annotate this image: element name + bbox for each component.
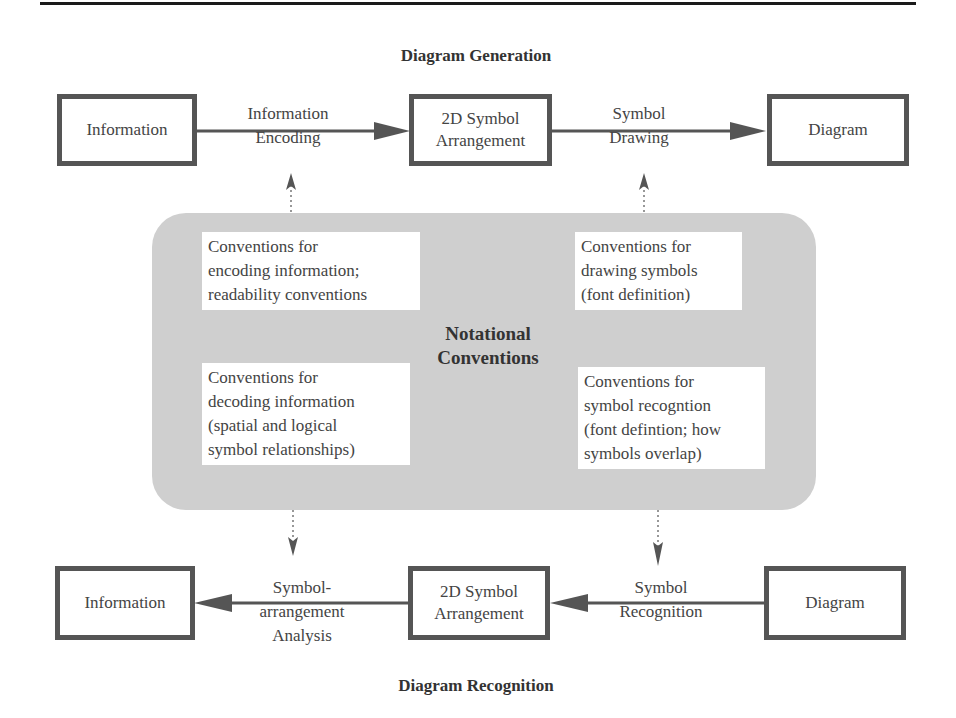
node-information-generation: Information xyxy=(57,94,197,166)
node-label-line1: 2D Symbol xyxy=(442,108,520,130)
note-line: Conventions for xyxy=(208,366,404,390)
node-diagram-recognition: Diagram xyxy=(764,566,906,640)
node-label: Information xyxy=(84,592,165,614)
edge-label-line3: Analysis xyxy=(232,624,372,648)
note-line: Conventions for xyxy=(584,370,759,394)
edge-label-line1: Symbol- xyxy=(232,576,372,600)
edge-label-line2: Encoding xyxy=(218,126,358,150)
edge-label-line2: arrangement xyxy=(232,600,372,624)
node-label-line2: Arrangement xyxy=(436,130,526,152)
node-diagram-generation: Diagram xyxy=(767,94,909,166)
edge-label-symbol-recognition: Symbol Recognition xyxy=(596,576,726,624)
note-line: symbol recogntion xyxy=(584,394,759,418)
node-label: Diagram xyxy=(808,119,867,141)
edge-label-symbol-drawing: Symbol Drawing xyxy=(574,102,704,150)
note-line: Conventions for xyxy=(581,235,736,259)
node-2d-symbol-arrangement-recognition: 2D Symbol Arrangement xyxy=(408,566,550,640)
edge-label-symbol-arrangement-analysis: Symbol- arrangement Analysis xyxy=(232,576,372,648)
note-line: (font defintion; how xyxy=(584,418,759,442)
note-line: readability conventions xyxy=(208,283,414,307)
note-drawing-conventions: Conventions for drawing symbols (font de… xyxy=(575,232,742,310)
note-encoding-conventions: Conventions for encoding information; re… xyxy=(202,232,420,310)
note-line: Conventions for xyxy=(208,235,414,259)
note-recognition-conventions: Conventions for symbol recogntion (font … xyxy=(578,367,765,469)
node-label: Diagram xyxy=(805,592,864,614)
note-line: encoding information; xyxy=(208,259,414,283)
edge-label-line2: Drawing xyxy=(574,126,704,150)
node-label-line2: Arrangement xyxy=(434,603,524,625)
note-line: (spatial and logical xyxy=(208,414,404,438)
node-2d-symbol-arrangement-generation: 2D Symbol Arrangement xyxy=(409,94,552,166)
edge-label-line2: Recognition xyxy=(596,600,726,624)
title-line1: Notational xyxy=(418,322,558,346)
note-line: (font definition) xyxy=(581,283,736,307)
note-line: drawing symbols xyxy=(581,259,736,283)
note-line: decoding information xyxy=(208,390,404,414)
node-information-recognition: Information xyxy=(55,566,195,640)
edge-label-information-encoding: Information Encoding xyxy=(218,102,358,150)
node-label: Information xyxy=(86,119,167,141)
node-label-line1: 2D Symbol xyxy=(440,581,518,603)
recognition-title: Diagram Recognition xyxy=(366,676,586,696)
note-decoding-conventions: Conventions for decoding information (sp… xyxy=(202,363,410,465)
note-line: symbols overlap) xyxy=(584,442,759,466)
edge-label-line1: Information xyxy=(218,102,358,126)
note-line: symbol relationships) xyxy=(208,438,404,462)
edge-label-line1: Symbol xyxy=(574,102,704,126)
notational-conventions-title: Notational Conventions xyxy=(418,322,558,370)
title-line2: Conventions xyxy=(418,346,558,370)
edge-label-line1: Symbol xyxy=(596,576,726,600)
